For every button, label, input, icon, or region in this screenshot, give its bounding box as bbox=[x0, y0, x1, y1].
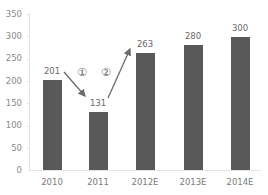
annotation-2: ② bbox=[101, 66, 111, 79]
bar-chart: 350 300 250 200 150 100 50 0 201 131 263… bbox=[0, 0, 268, 195]
up-arrow-icon bbox=[108, 49, 130, 98]
annotation-arrows bbox=[0, 0, 268, 195]
annotation-1: ① bbox=[77, 66, 87, 79]
